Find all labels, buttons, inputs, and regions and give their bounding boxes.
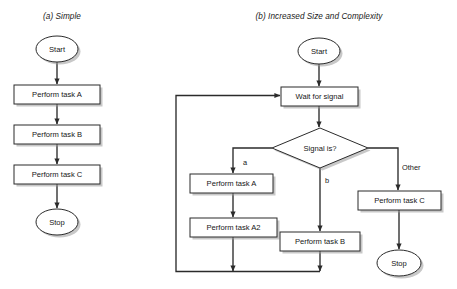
node-label: Perform task B [295,237,345,246]
node-label: Perform task A [207,179,258,188]
node-label: Signal is? [304,144,337,153]
node-label: Stop [49,218,65,227]
node-label: Stop [391,259,407,268]
node-label: Perform task C [32,170,83,179]
panel-b: (b) Increased Size and ComplexityStartWa… [176,12,444,279]
node-task-c: Perform task C [14,165,103,187]
edge-label-branch-label-b: b [325,176,329,185]
edge-decision-branch-a [233,148,272,173]
node-task-a: Perform task A [190,174,276,196]
node-start: Start [36,36,81,65]
node-label: Wait for signal [296,92,344,101]
node-task-a2: Perform task A2 [190,218,280,240]
node-task-b: Perform task B [280,232,363,254]
node-label: Perform task C [374,196,425,205]
node-task-b: Perform task B [14,125,103,147]
node-stop: Stop [377,250,424,279]
panel-title-a: (a) Simple [43,12,81,21]
edge-decision-branch-other [368,148,398,190]
panel-a: (a) SimpleStartPerform task APerform tas… [14,12,103,238]
node-label: Perform task A [32,90,83,99]
edge-label-branch-label-a: a [243,158,248,167]
node-label: Perform task B [32,130,82,139]
node-signal-decision: Signal is? [272,128,371,171]
node-stop: Stop [36,209,81,238]
diagram-canvas: (a) SimpleStartPerform task APerform tas… [0,0,457,289]
node-wait-for-signal: Wait for signal [281,87,361,109]
node-label: Perform task A2 [206,223,260,232]
node-task-a: Perform task A [14,85,103,107]
flowchart-figure: (a) SimpleStartPerform task APerform tas… [0,0,457,289]
edge-label-branch-label-other: Other [402,163,421,172]
node-start: Start [298,38,343,67]
node-task-c: Perform task C [358,191,444,213]
node-label: Start [49,45,66,54]
node-label: Start [311,47,328,56]
panel-title-b: (b) Increased Size and Complexity [256,12,384,21]
